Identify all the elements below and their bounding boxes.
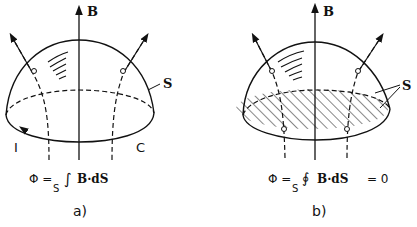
equation-a-subscript: S (53, 183, 59, 194)
caption-a: a) (73, 203, 87, 219)
panel-b-figure (36, 0, 400, 160)
equation-a-body: B·dS (77, 172, 108, 186)
caption-b: b) (312, 203, 326, 219)
contour-label-c: C (136, 140, 145, 155)
equation-b-body: B·dS (317, 172, 348, 186)
equation-b-subscript: S (292, 183, 298, 194)
diagram-canvas (0, 0, 417, 227)
equation-b-phi: Φ = (268, 172, 291, 186)
integral-sign-a: ∫ (64, 170, 72, 188)
field-label-b-a: B (87, 4, 98, 19)
surface-label-s-a: S (163, 76, 172, 91)
current-label-i: I (14, 140, 18, 155)
contour-integral-sign-b: ∮ (302, 170, 309, 186)
equation-b-tail: = 0 (367, 172, 389, 186)
panel-a-figure (6, 10, 160, 160)
equation-a-phi: Φ = (29, 172, 52, 186)
field-label-b-b: B (323, 4, 334, 19)
surface-label-s-b: S (402, 78, 411, 93)
